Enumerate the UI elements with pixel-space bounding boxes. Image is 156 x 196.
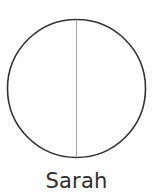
circle-label: Sarah	[0, 168, 153, 194]
divided-circle-graphic	[0, 0, 156, 166]
divided-circle-figure: Sarah	[0, 0, 156, 196]
